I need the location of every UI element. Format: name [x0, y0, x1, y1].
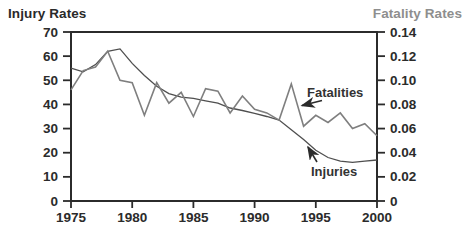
left-axis-tick-label: 70 — [43, 25, 58, 40]
x-axis-tick-label: 1990 — [240, 210, 270, 225]
left-axis-tick-label: 10 — [43, 169, 58, 184]
fatalities-annotation-label: Fatalities — [307, 85, 363, 100]
left-axis-tick-label: 60 — [43, 49, 58, 64]
plot-area: 01020304050607000.020.040.060.080.100.12… — [0, 0, 469, 235]
injuries-annotation-label: Injuries — [311, 164, 357, 179]
left-axis-tick-label: 40 — [43, 97, 58, 112]
x-axis-tick-label: 1980 — [117, 210, 147, 225]
right-axis-tick-label: 0.12 — [390, 49, 416, 64]
fatalities-annotation-arrow — [302, 101, 322, 106]
x-axis-tick-label: 1985 — [178, 210, 209, 225]
left-axis-tick-label: 0 — [50, 194, 58, 209]
right-axis-tick-label: 0.06 — [390, 121, 417, 136]
x-axis-tick-label: 1995 — [301, 210, 332, 225]
right-axis-title: Fatality Rates — [373, 6, 462, 21]
left-axis-tick-label: 20 — [43, 145, 58, 160]
injuries-line — [71, 49, 377, 162]
x-axis-tick-label: 1975 — [56, 210, 87, 225]
right-axis-tick-label: 0.14 — [390, 25, 417, 40]
left-axis-title: Injury Rates — [8, 6, 86, 21]
injuries-annotation-arrow — [308, 147, 317, 162]
right-axis-tick-label: 0.04 — [390, 145, 417, 160]
right-axis-tick-label: 0.02 — [390, 169, 416, 184]
right-axis-tick-label: 0.08 — [390, 97, 417, 112]
left-axis-tick-label: 50 — [43, 73, 58, 88]
right-axis-tick-label: 0.10 — [390, 73, 416, 88]
chart-container: Injury Rates Fatality Rates 010203040506… — [0, 0, 469, 235]
right-axis-tick-label: 0 — [390, 194, 398, 209]
left-axis-tick-label: 30 — [43, 121, 58, 136]
x-axis-tick-label: 2000 — [362, 210, 392, 225]
